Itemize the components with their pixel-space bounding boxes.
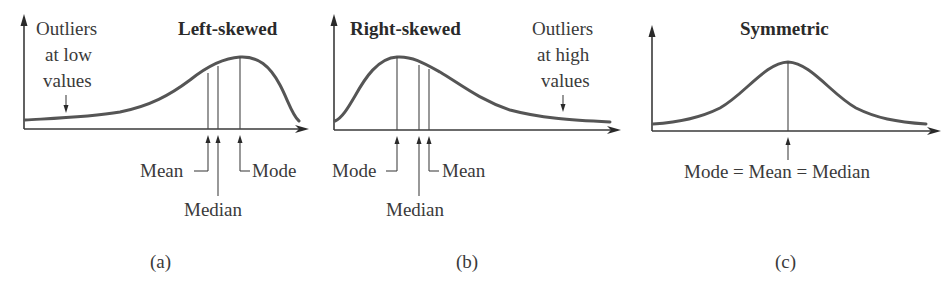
median-label: Median (386, 199, 445, 220)
outlier-annotation-line3: values (541, 70, 590, 91)
mode-label: Mode (252, 160, 296, 181)
mode-arrow-icon (238, 135, 243, 143)
median-arrow-icon (216, 135, 221, 143)
density-curve (653, 62, 926, 124)
panel-title: Symmetric (740, 18, 829, 39)
outlier-annotation-line3: values (43, 70, 92, 91)
panel-caption: (b) (456, 251, 478, 273)
mode-mean-median-label: Mode = Mean = Median (684, 161, 871, 182)
panel-title: Right-skewed (350, 18, 461, 39)
outlier-annotation-line1: Outliers (36, 18, 97, 39)
median-label: Median (184, 199, 243, 220)
mean-label: Mean (140, 160, 184, 181)
panel-title: Left-skewed (178, 18, 278, 39)
outlier-arrow-icon (561, 104, 566, 112)
y-axis-arrow-icon (649, 25, 656, 37)
panel-symmetric: Mode = Mean = Median Symmetric (c) (649, 18, 942, 273)
panel-right-skewed: Mode Median Mean Right-skewed Outliers a… (331, 14, 622, 273)
mean-arrow-icon (427, 136, 432, 144)
median-arrow-icon (417, 136, 422, 144)
y-axis-arrow-icon (331, 14, 338, 26)
mean-arrow-icon (206, 135, 211, 143)
y-axis-arrow-icon (21, 14, 28, 26)
panel-left-skewed: Mean Median Mode Left-skewed Outliers at… (21, 14, 310, 273)
panel-caption: (a) (150, 251, 171, 273)
outlier-annotation-line1: Outliers (532, 18, 593, 39)
mode-arrow-icon (395, 136, 400, 144)
mode-label: Mode (332, 160, 376, 181)
outlier-arrow-icon (64, 105, 69, 113)
mean-label: Mean (442, 160, 486, 181)
panel-caption: (c) (775, 251, 796, 273)
center-arrow-icon (786, 137, 791, 145)
outlier-annotation-line2: at low (45, 44, 92, 65)
outlier-annotation-line2: at high (537, 44, 590, 65)
